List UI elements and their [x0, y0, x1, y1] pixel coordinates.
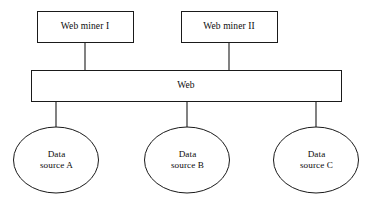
data-source-b-ellipse[interactable]: [145, 127, 230, 193]
data-source-a-ellipse[interactable]: [14, 127, 99, 193]
web-miner-2-box[interactable]: [182, 12, 278, 43]
web-bar-box[interactable]: [32, 71, 342, 102]
diagram-graphics: [0, 0, 372, 199]
web-miner-1-box[interactable]: [38, 12, 134, 43]
data-source-c-ellipse[interactable]: [274, 127, 359, 193]
diagram-canvas: Web miner I Web miner II Web Data source…: [0, 0, 372, 199]
